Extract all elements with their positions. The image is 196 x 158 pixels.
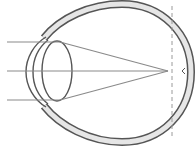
- ray-bottom-refracted: [60, 71, 168, 100]
- eye-diagram: [0, 0, 196, 158]
- ray-top-refracted: [60, 42, 168, 71]
- cornea: [26, 37, 48, 107]
- eyeball-wall: [44, 4, 191, 142]
- focal-point-marker: [182, 68, 185, 74]
